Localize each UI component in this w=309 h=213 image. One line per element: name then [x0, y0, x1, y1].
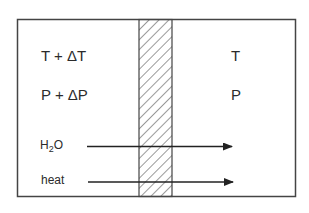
right-pressure-label: P: [231, 87, 241, 102]
heat-flow-label: heat: [41, 174, 64, 186]
membrane: [139, 20, 172, 197]
left-pressure-label: P + ΔP: [41, 87, 88, 102]
h2o-main: H: [40, 138, 49, 152]
h2o-flow-label: H2O: [40, 139, 63, 154]
right-temperature-label: T: [231, 48, 240, 63]
left-temperature-label: T + ΔT: [41, 48, 86, 63]
h2o-tail: O: [54, 138, 63, 152]
